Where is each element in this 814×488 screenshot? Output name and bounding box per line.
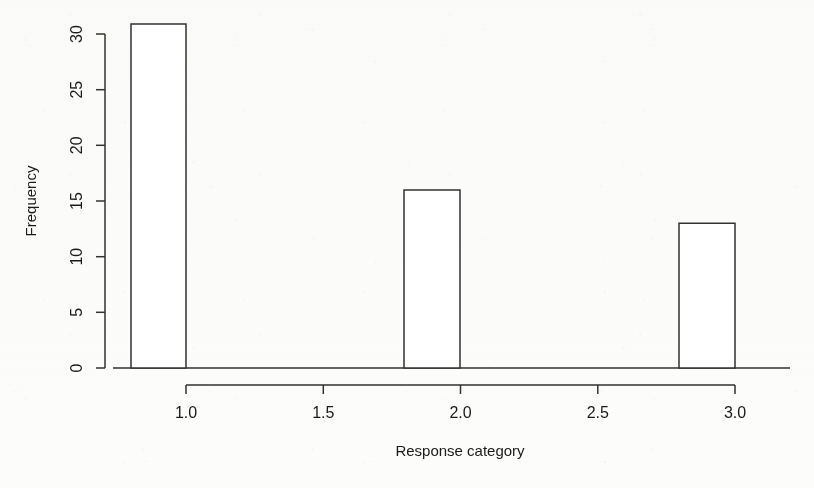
bar-category-1 — [131, 24, 186, 368]
y-tick-label-30: 30 — [68, 25, 85, 43]
y-tick-label-5: 5 — [68, 308, 85, 317]
histogram-plot: 0 5 10 15 20 25 30 Frequency 1.0 1.5 2.0… — [0, 0, 814, 488]
y-tick-label-20: 20 — [68, 136, 85, 154]
x-tick-label-2-0: 2.0 — [449, 404, 471, 421]
y-tick-label-0: 0 — [68, 363, 85, 372]
y-tick-label-10: 10 — [68, 248, 85, 266]
chart-figure: 0 5 10 15 20 25 30 Frequency 1.0 1.5 2.0… — [0, 0, 814, 488]
y-tick-label-15: 15 — [68, 192, 85, 210]
y-axis-title: Frequency — [22, 165, 39, 236]
y-tick-label-25: 25 — [68, 81, 85, 99]
bar-category-2 — [404, 190, 460, 368]
x-tick-label-1-5: 1.5 — [312, 404, 334, 421]
bar-category-3 — [679, 223, 735, 368]
x-tick-label-1-0: 1.0 — [175, 404, 197, 421]
x-tick-label-3-0: 3.0 — [724, 404, 746, 421]
x-axis-title: Response category — [395, 442, 525, 459]
x-tick-label-2-5: 2.5 — [587, 404, 609, 421]
